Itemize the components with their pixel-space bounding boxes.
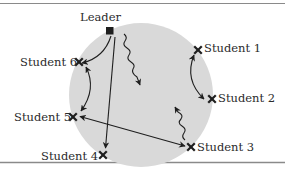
student3-label: Student 3 <box>197 140 254 154</box>
student2-label: Student 2 <box>218 91 275 105</box>
student5-label: Student 5 <box>14 110 71 124</box>
leader-label: Leader <box>80 10 121 24</box>
leader-marker-icon <box>106 27 114 35</box>
student4-label: Student 4 <box>41 149 98 163</box>
student1-label: Student 1 <box>204 41 261 55</box>
diagram-frame: Leader <box>0 0 285 176</box>
communication-diagram: Leader <box>0 0 285 176</box>
student6-label: Student 6 <box>20 55 77 69</box>
